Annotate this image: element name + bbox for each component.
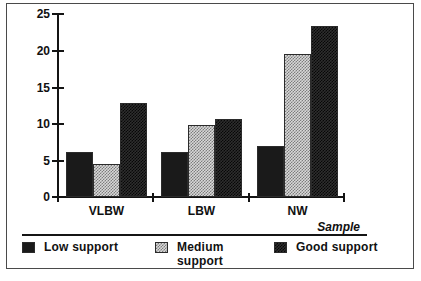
bar-vlbw-medium-support [93, 164, 120, 197]
y-tick-label-25: 25 [16, 8, 50, 20]
y-tick-label-10: 10 [16, 118, 50, 130]
bar-nw-low-support [257, 146, 284, 197]
legend-item-low-support: Low support [22, 240, 118, 254]
bar-vlbw-low-support [66, 152, 93, 197]
bar-lbw-good-support [215, 119, 242, 197]
legend-label-medium-support: Medium support [177, 240, 224, 268]
x-category-label-nw: NW [257, 204, 338, 218]
bar-nw-medium-support [284, 54, 311, 197]
y-tick-5 [52, 160, 64, 162]
dark-solid-swatch-icon [22, 242, 35, 253]
y-axis-tick-labels: 25 20 15 10 5 0 [8, 0, 50, 210]
chart-legend: Low support Medium support Good support [22, 240, 402, 272]
legend-label-good-support: Good support [296, 240, 378, 254]
light-checker-swatch-icon [155, 242, 168, 253]
y-tick-label-20: 20 [16, 45, 50, 57]
x-category-label-lbw: LBW [161, 204, 242, 218]
dark-checker-swatch-icon [274, 242, 287, 253]
y-axis-line [57, 13, 59, 199]
legend-item-good-support: Good support [274, 240, 378, 254]
y-tick-10 [52, 123, 64, 125]
y-tick-label-0: 0 [16, 191, 50, 203]
x-tick-end [343, 193, 345, 202]
legend-item-medium-support: Medium support [155, 240, 224, 268]
x-tick-start [57, 193, 59, 202]
y-tick-25 [52, 13, 64, 15]
legend-label-low-support: Low support [44, 240, 118, 254]
y-tick-20 [52, 50, 64, 52]
y-tick-15 [52, 87, 64, 89]
x-category-label-vlbw: VLBW [66, 204, 147, 218]
x-axis-title: Sample [0, 220, 360, 234]
bar-vlbw-good-support [120, 103, 147, 197]
bar-chart-plot-area: 25 20 15 10 5 0 VLBW LBW NW Sample Low s… [0, 0, 421, 281]
legend-separator-rule [22, 234, 367, 236]
x-tick-lbw-nw [248, 193, 250, 202]
x-tick-vlbw-lbw [152, 193, 154, 202]
y-tick-label-15: 15 [16, 82, 50, 94]
bar-lbw-low-support [161, 152, 188, 197]
bar-lbw-medium-support [188, 125, 215, 197]
bar-nw-good-support [311, 26, 338, 197]
y-tick-label-5: 5 [16, 155, 50, 167]
